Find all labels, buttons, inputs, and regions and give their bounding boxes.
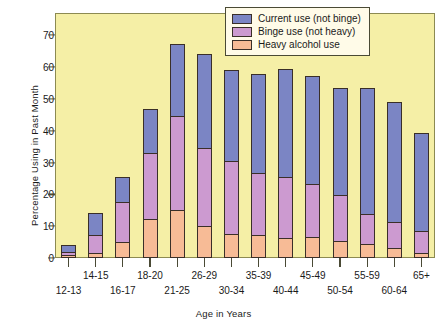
bar-segment-current-65+ xyxy=(414,133,429,233)
bar-14-15 xyxy=(88,211,103,258)
bar-40-44 xyxy=(278,67,293,258)
bar-segment-current-30-34 xyxy=(224,70,239,163)
bar-segment-binge-26-29 xyxy=(197,148,212,227)
x-tick-mark-26-29 xyxy=(204,258,205,267)
y-tick-mark-30 xyxy=(48,162,55,163)
bar-45-49 xyxy=(305,73,320,258)
x-tick-label-45-49: 45-49 xyxy=(300,270,326,281)
x-tick-label-50-54: 50-54 xyxy=(327,285,353,296)
bar-segment-binge-21-25 xyxy=(170,116,185,211)
legend-swatch-current-icon xyxy=(232,14,252,24)
x-tick-label-40-44: 40-44 xyxy=(273,285,299,296)
y-tick-mark-50 xyxy=(48,98,55,99)
x-tick-mark-60-64 xyxy=(394,258,395,267)
y-tick-mark-60 xyxy=(48,66,55,67)
bar-segment-heavy-18-20 xyxy=(143,219,158,258)
bar-21-25 xyxy=(170,41,185,258)
x-tick-mark-35-39 xyxy=(258,258,259,267)
x-tick-label-12-13: 12-13 xyxy=(56,285,82,296)
bar-16-17 xyxy=(115,175,130,258)
x-tick-mark-40-44 xyxy=(285,258,286,267)
bar-35-39 xyxy=(251,72,266,258)
x-tick-mark-50-54 xyxy=(339,258,340,267)
y-tick-mark-40 xyxy=(48,130,55,131)
x-tick-label-16-17: 16-17 xyxy=(110,285,136,296)
legend-label-binge: Binge use (not heavy) xyxy=(258,26,355,37)
bar-segment-heavy-40-44 xyxy=(278,238,293,258)
bar-segment-current-21-25 xyxy=(170,44,185,117)
bar-segment-current-60-64 xyxy=(387,102,402,223)
y-tick-mark-10 xyxy=(48,226,55,227)
bar-segment-heavy-16-17 xyxy=(115,242,130,258)
x-tick-mark-16-17 xyxy=(122,258,123,267)
x-tick-label-65+: 65+ xyxy=(413,270,430,281)
bar-65+ xyxy=(414,130,429,258)
legend-item-current: Current use (not binge) xyxy=(232,13,361,24)
bar-segment-binge-45-49 xyxy=(305,184,320,237)
legend-item-heavy: Heavy alcohol use xyxy=(232,39,361,50)
bar-segment-current-18-20 xyxy=(143,109,158,153)
x-tick-mark-18-20 xyxy=(149,258,150,267)
bar-segment-binge-16-17 xyxy=(115,202,130,243)
x-tick-mark-55-59 xyxy=(367,258,368,267)
bar-segment-heavy-55-59 xyxy=(360,244,375,258)
x-tick-mark-21-25 xyxy=(177,258,178,267)
bar-segment-current-35-39 xyxy=(251,74,266,174)
x-tick-label-21-25: 21-25 xyxy=(164,285,190,296)
x-tick-mark-30-34 xyxy=(231,258,232,267)
x-tick-mark-14-15 xyxy=(95,258,96,267)
bar-segment-heavy-35-39 xyxy=(251,235,266,258)
x-tick-label-55-59: 55-59 xyxy=(354,270,380,281)
legend-item-binge: Binge use (not heavy) xyxy=(232,26,361,37)
y-axis-title: Percentage Using in Past Month xyxy=(29,46,40,266)
bar-60-64 xyxy=(387,100,402,258)
bar-50-54 xyxy=(333,86,348,258)
bar-segment-current-40-44 xyxy=(278,69,293,178)
bar-segment-binge-40-44 xyxy=(278,177,293,239)
x-tick-mark-45-49 xyxy=(312,258,313,267)
bar-segment-heavy-50-54 xyxy=(333,241,348,258)
y-tick-mark-0 xyxy=(48,257,55,258)
bar-segment-current-16-17 xyxy=(115,177,130,203)
x-tick-label-60-64: 60-64 xyxy=(381,285,407,296)
legend-label-current: Current use (not binge) xyxy=(258,13,361,24)
legend-swatch-binge-icon xyxy=(232,27,252,37)
bar-segment-heavy-21-25 xyxy=(170,210,185,258)
bar-segment-binge-14-15 xyxy=(88,235,103,254)
bar-segment-binge-18-20 xyxy=(143,153,158,221)
bar-segment-binge-35-39 xyxy=(251,173,266,237)
bar-12-13 xyxy=(61,242,76,258)
x-tick-mark-12-13 xyxy=(68,258,69,267)
chart-legend: Current use (not binge)Binge use (not he… xyxy=(225,7,370,56)
x-axis-title: Age in Years xyxy=(0,308,447,319)
bar-26-29 xyxy=(197,52,212,258)
bar-segment-binge-30-34 xyxy=(224,161,239,235)
x-tick-label-30-34: 30-34 xyxy=(219,285,245,296)
y-tick-mark-20 xyxy=(48,194,55,195)
bar-segment-current-50-54 xyxy=(333,88,348,196)
bar-segment-heavy-30-34 xyxy=(224,234,239,258)
bar-segment-current-45-49 xyxy=(305,76,320,186)
bar-segment-binge-55-59 xyxy=(360,214,375,245)
bar-segment-binge-65+ xyxy=(414,231,429,254)
x-tick-label-26-29: 26-29 xyxy=(191,270,217,281)
bar-30-34 xyxy=(224,67,239,258)
bar-segment-heavy-45-49 xyxy=(305,237,320,258)
legend-swatch-heavy-icon xyxy=(232,40,252,50)
bar-18-20 xyxy=(143,107,158,258)
x-tick-label-35-39: 35-39 xyxy=(246,270,272,281)
bar-segment-current-55-59 xyxy=(360,88,375,215)
x-tick-mark-65+ xyxy=(421,258,422,267)
bar-segment-binge-60-64 xyxy=(387,222,402,250)
bar-55-59 xyxy=(360,86,375,258)
legend-label-heavy: Heavy alcohol use xyxy=(258,39,340,50)
bar-segment-current-26-29 xyxy=(197,54,212,149)
y-tick-mark-70 xyxy=(48,35,55,36)
x-tick-label-14-15: 14-15 xyxy=(83,270,109,281)
x-tick-label-18-20: 18-20 xyxy=(137,270,163,281)
chart-figure: Percentage Using in Past Month 010203040… xyxy=(0,0,447,330)
bar-segment-heavy-60-64 xyxy=(387,248,402,258)
bar-segment-binge-50-54 xyxy=(333,195,348,243)
bar-segment-heavy-26-29 xyxy=(197,226,212,258)
bar-segment-current-14-15 xyxy=(88,213,103,237)
